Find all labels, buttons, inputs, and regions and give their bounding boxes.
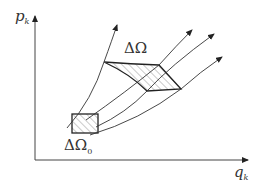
y-axis-label: pk: [15, 9, 29, 26]
initial-region-label: ΔΩ0: [64, 138, 92, 156]
phase-space-diagram: [0, 0, 265, 186]
initial-region-symbol: ΔΩ: [64, 136, 87, 154]
evolved-region: [104, 62, 181, 91]
y-axis-subscript: k: [25, 17, 30, 26]
x-axis-subscript: k: [244, 173, 249, 182]
x-axis-symbol: q: [234, 163, 244, 181]
x-axis-label: qk: [234, 165, 248, 182]
y-axis-symbol: p: [15, 7, 25, 25]
initial-region-subscript: 0: [87, 147, 92, 156]
evolved-region-label: ΔΩ: [124, 41, 147, 56]
evolved-region-symbol: ΔΩ: [124, 39, 147, 57]
trajectory-1: [67, 25, 117, 128]
